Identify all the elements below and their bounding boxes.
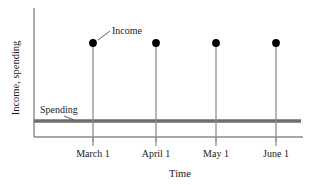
income-point-june	[272, 39, 280, 47]
income-annotation-label: Income	[112, 25, 143, 36]
income-point-april	[152, 39, 160, 47]
x-tick-label-may: May 1	[203, 148, 229, 159]
x-tick-label-march: March 1	[76, 148, 110, 159]
x-tick-label-june: June 1	[263, 148, 289, 159]
income-point-march	[89, 39, 97, 47]
income-spending-chart: Income Spending March 1 April 1 May 1 Ju…	[0, 0, 312, 185]
x-tick-label-april: April 1	[142, 148, 171, 159]
income-leader-line	[98, 31, 110, 40]
y-axis-title: Income, spending	[10, 40, 21, 115]
x-axis-title: Time	[169, 168, 191, 179]
income-point-may	[212, 39, 220, 47]
chart-container: Income Spending March 1 April 1 May 1 Ju…	[0, 0, 312, 185]
spending-annotation-label: Spending	[40, 104, 78, 115]
